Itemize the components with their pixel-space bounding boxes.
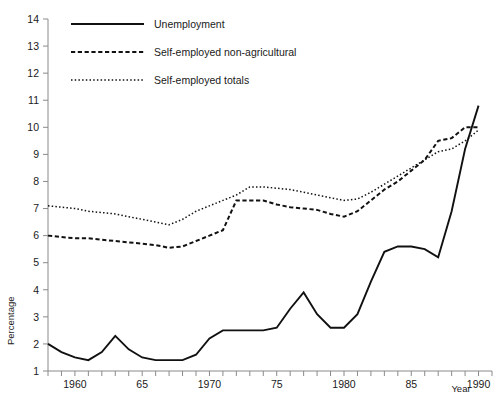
y-tick-label: 4 <box>33 284 39 296</box>
x-tick-label: 1970 <box>198 378 222 390</box>
y-axis-tick-labels: 1234567891011121314 <box>27 13 39 377</box>
y-tick-label: 14 <box>27 13 39 25</box>
y-tick-label: 10 <box>27 121 39 133</box>
y-tick-label: 12 <box>27 67 39 79</box>
chart-figure: 1234567891011121314 19606519707519808519… <box>0 0 498 398</box>
data-series-group <box>48 106 479 361</box>
y-axis-ticks <box>43 19 48 371</box>
legend-label-2: Self-employed non-agricultural <box>154 46 296 58</box>
y-tick-label: 1 <box>33 365 39 377</box>
x-axis-title: Year <box>451 383 470 394</box>
chart-legend: UnemploymentSelf-employed non-agricultur… <box>71 18 296 86</box>
clipped-text-artifact <box>0 0 498 7</box>
x-tick-label: 75 <box>271 378 283 390</box>
legend-label-3: Self-employed totals <box>154 74 249 86</box>
y-axis-title: Percentage <box>5 296 16 345</box>
x-tick-label: 1980 <box>332 378 356 390</box>
x-axis-ticks <box>48 371 492 376</box>
y-tick-label: 8 <box>33 175 39 187</box>
y-tick-label: 11 <box>28 94 39 106</box>
series-line-2 <box>48 127 479 247</box>
y-tick-label: 5 <box>33 256 39 268</box>
y-tick-label: 3 <box>33 311 39 323</box>
y-tick-label: 13 <box>27 40 39 52</box>
y-tick-label: 7 <box>33 202 39 214</box>
legend-label-1: Unemployment <box>154 18 225 30</box>
series-line-3 <box>48 130 479 225</box>
line-chart-canvas: 1234567891011121314 19606519707519808519… <box>0 0 498 398</box>
series-line-1 <box>48 106 479 361</box>
x-tick-label: 85 <box>405 378 417 390</box>
y-tick-label: 2 <box>33 338 39 350</box>
y-tick-label: 6 <box>33 229 39 241</box>
x-tick-label: 65 <box>136 378 148 390</box>
x-axis-tick-labels: 1960651970751980851990 <box>63 378 490 390</box>
x-tick-label: 1960 <box>63 378 87 390</box>
y-tick-label: 9 <box>33 148 39 160</box>
